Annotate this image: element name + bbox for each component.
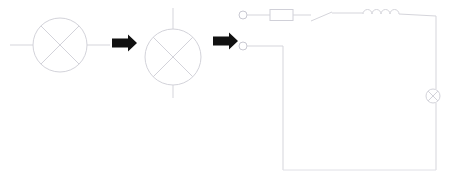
stage-3-circuit-schematic	[239, 10, 440, 171]
circuit-diagram-svg	[0, 0, 449, 182]
right-arrow-icon	[213, 33, 238, 50]
circuit-figure-canvas: Circuit symbol transformation to schemat…	[0, 0, 449, 182]
terminal-bottom-icon	[239, 42, 247, 50]
stage-2-lamp-symbol-vertical	[145, 8, 201, 98]
terminal-top-icon	[239, 11, 247, 19]
wire-inductor-to-corner	[399, 14, 436, 16]
arrow-2	[213, 33, 238, 50]
resistor-icon	[270, 10, 293, 21]
stage-1-lamp-symbol-horizontal	[10, 18, 110, 72]
arrow-1	[112, 35, 137, 52]
inductor-icon	[363, 10, 399, 15]
right-arrow-icon	[112, 35, 137, 52]
switch-blade-icon	[311, 12, 332, 21]
